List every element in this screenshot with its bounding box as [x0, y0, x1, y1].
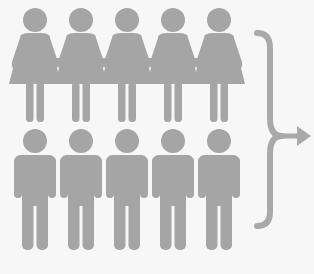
diagram-canvas	[0, 0, 314, 274]
man-icon	[198, 129, 240, 250]
man-icon	[14, 129, 56, 250]
woman-icon	[147, 8, 199, 122]
curly-brace-icon	[257, 33, 282, 226]
man-icon	[60, 129, 102, 250]
man-icon	[106, 129, 148, 250]
woman-icon	[55, 8, 107, 122]
people-group-diagram	[0, 0, 314, 274]
woman-icon	[193, 8, 245, 122]
woman-icon	[101, 8, 153, 122]
men-row	[14, 129, 240, 250]
arrow-right-icon	[280, 126, 311, 146]
women-row	[9, 8, 245, 122]
man-icon	[152, 129, 194, 250]
woman-icon	[9, 8, 61, 122]
